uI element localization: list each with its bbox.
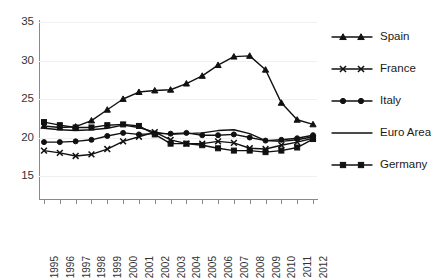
- data-point-circle-icon: [136, 132, 141, 137]
- data-point-square-icon: [152, 132, 157, 137]
- data-point-square-icon: [73, 125, 78, 130]
- data-point-square-icon: [311, 137, 316, 142]
- series-italy: [42, 130, 316, 144]
- legend-item-france[interactable]: France: [330, 54, 416, 86]
- data-point-square-icon: [168, 141, 173, 146]
- data-point-circle-icon: [121, 130, 126, 135]
- data-point-square-icon: [279, 148, 284, 153]
- data-point-circle-icon: [73, 139, 78, 144]
- legend-item-euro-area[interactable]: Euro Area: [330, 118, 416, 150]
- legend-symbol-x-icon: [330, 62, 374, 76]
- legend-item-spain[interactable]: Spain: [330, 22, 416, 54]
- legend-item-italy[interactable]: Italy: [330, 86, 416, 118]
- legend-label: France: [380, 61, 416, 75]
- data-point-triangle-icon: [215, 62, 221, 68]
- legend-symbol-square-icon: [330, 158, 374, 172]
- data-point-square-icon: [89, 125, 94, 130]
- data-point-square-icon: [42, 120, 47, 125]
- data-point-square-icon: [121, 122, 126, 127]
- series-germany: [42, 120, 316, 155]
- data-point-circle-icon: [247, 135, 252, 140]
- legend-label: Euro Area: [380, 125, 431, 139]
- data-point-square-icon: [105, 123, 110, 128]
- data-point-square-icon: [136, 123, 141, 128]
- legend-symbol-circle-icon: [330, 94, 374, 108]
- data-point-square-icon: [263, 150, 268, 155]
- legend-label: Italy: [380, 93, 401, 107]
- chart-legend: SpainFranceItalyEuro AreaGermany: [330, 22, 416, 182]
- legend-symbol-none-icon: [330, 126, 374, 140]
- data-point-square-icon: [216, 146, 221, 151]
- data-point-square-icon: [57, 123, 62, 128]
- legend-label: Spain: [380, 29, 409, 43]
- data-point-circle-icon: [42, 140, 47, 145]
- data-point-circle-icon: [89, 137, 94, 142]
- data-point-circle-icon: [105, 133, 110, 138]
- data-point-circle-icon: [231, 132, 236, 137]
- data-point-square-icon: [200, 143, 205, 148]
- data-point-circle-icon: [216, 133, 221, 138]
- data-point-square-icon: [247, 148, 252, 153]
- legend-item-germany[interactable]: Germany: [330, 150, 416, 182]
- legend-label: Germany: [380, 157, 427, 171]
- series-spain: [41, 53, 316, 130]
- data-point-triangle-icon: [278, 100, 284, 106]
- data-point-circle-icon: [57, 140, 62, 145]
- data-point-square-icon: [184, 141, 189, 146]
- data-point-square-icon: [295, 145, 300, 150]
- series-line-spain: [44, 56, 313, 128]
- data-point-square-icon: [231, 148, 236, 153]
- legend-symbol-triangle-icon: [330, 30, 374, 44]
